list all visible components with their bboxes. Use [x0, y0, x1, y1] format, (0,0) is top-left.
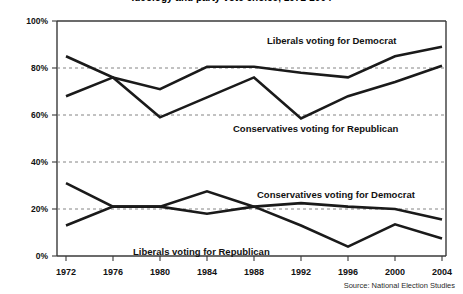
ytick-label-60: 60% — [31, 110, 48, 120]
annotation-conservatives-republican: Conservatives voting for Republican — [233, 123, 398, 134]
xtick-label-2004: 2004 — [432, 267, 452, 277]
xtick-label-1972: 1972 — [56, 267, 76, 277]
xtick-label-2000: 2000 — [385, 267, 405, 277]
annotation-liberals-republican: Liberals voting for Republican — [133, 246, 270, 257]
xtick-label-1984: 1984 — [197, 267, 217, 277]
xtick-label-1988: 1988 — [244, 267, 264, 277]
y-axis-labels: 0% 20% 40% 60% 80% 100% — [26, 16, 48, 261]
ytick-label-0: 0% — [36, 251, 49, 261]
gridlines — [57, 68, 446, 209]
plot-frame — [57, 21, 446, 256]
line-chart-plot: 0% 20% 40% 60% 80% 100% 1972 1976 1980 1… — [0, 0, 463, 294]
y-axis-ticks — [52, 21, 57, 256]
xtick-label-1976: 1976 — [103, 267, 123, 277]
series-line-liberals-democrat — [66, 47, 442, 89]
x-axis-labels: 1972 1976 1980 1984 1988 1992 1996 2000 … — [56, 267, 452, 277]
annotation-conservatives-democrat: Conservatives voting for Democrat — [257, 189, 416, 200]
ytick-label-20: 20% — [31, 204, 48, 214]
xtick-label-1980: 1980 — [150, 267, 170, 277]
annotation-liberals-democrat: Liberals voting for Democrat — [267, 35, 397, 46]
data-series-group — [66, 47, 442, 247]
ytick-label-80: 80% — [31, 63, 48, 73]
ytick-label-40: 40% — [31, 157, 48, 167]
xtick-label-1996: 1996 — [338, 267, 358, 277]
xtick-label-1992: 1992 — [291, 267, 311, 277]
source-note: Source: National Election Studies — [344, 281, 456, 290]
ytick-label-100: 100% — [26, 16, 48, 26]
chart-container: Ideology and party vote choice, 1972-200… — [0, 0, 463, 294]
series-line-conservatives-republican — [66, 66, 442, 119]
